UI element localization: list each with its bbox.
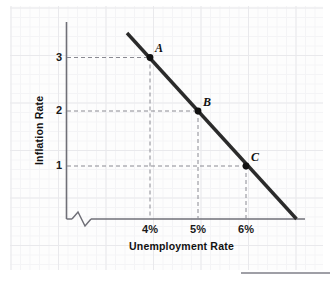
y-tick-label-1: 1 (48, 160, 62, 171)
data-point-c (243, 163, 250, 170)
data-point-a (147, 54, 154, 61)
bottom-rule-artifact (241, 272, 330, 274)
point-label-b: B (203, 96, 211, 108)
data-point-b (195, 108, 202, 115)
x-tick-label-5pct: 5% (183, 224, 213, 235)
y-axis-title: Inflation Rate (33, 96, 45, 165)
x-tick-label-6pct: 6% (231, 224, 261, 235)
y-tick-label-2: 2 (48, 105, 62, 116)
y-tick-label-3: 3 (48, 52, 62, 63)
point-label-a: A (155, 42, 163, 54)
x-axis-title: Unemployment Rate (129, 240, 234, 252)
x-tick-label-4pct: 4% (135, 224, 165, 235)
axis-break-zigzag (72, 212, 91, 226)
phillips-curve-line (127, 33, 297, 219)
point-label-c: C (251, 151, 259, 163)
chart-canvas: 3 2 1 4% 5% 6% A B C Inflation Rate Unem… (0, 0, 333, 282)
